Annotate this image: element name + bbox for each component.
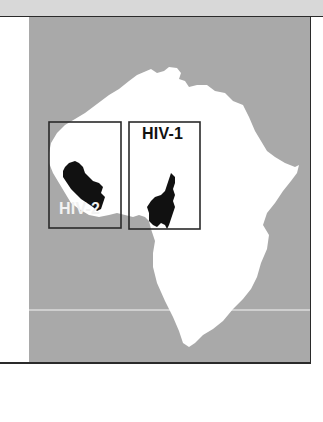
top-strip	[0, 0, 323, 17]
hiv2-label: HIV-2	[59, 200, 100, 218]
bottom-margin	[0, 364, 323, 422]
left-margin	[0, 17, 29, 362]
hiv1-label: HIV-1	[142, 125, 183, 143]
africa-map-panel: HIV-2 HIV-1	[29, 17, 311, 362]
africa-map	[29, 17, 310, 362]
